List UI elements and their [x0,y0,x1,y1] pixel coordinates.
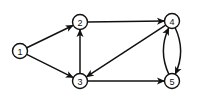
node-label: 4 [169,17,174,27]
node-label: 3 [77,77,82,87]
node-5: 5 [165,74,180,89]
edge-1-to-2 [27,25,73,47]
edge-4-to-5 [175,28,180,74]
edge-2-to-4 [87,21,164,22]
edge-5-to-4 [163,28,168,74]
edges-layer [27,21,181,81]
node-2: 2 [73,15,88,30]
node-1: 1 [13,44,28,59]
edge-4-to-3 [87,25,166,77]
node-label: 5 [169,77,174,87]
node-4: 4 [165,14,180,29]
node-label: 1 [17,47,22,57]
nodes-layer: 12345 [13,14,180,89]
node-label: 2 [77,18,82,28]
node-3: 3 [73,74,88,89]
directed-graph: 12345 [0,0,198,98]
edge-1-to-3 [27,54,73,77]
